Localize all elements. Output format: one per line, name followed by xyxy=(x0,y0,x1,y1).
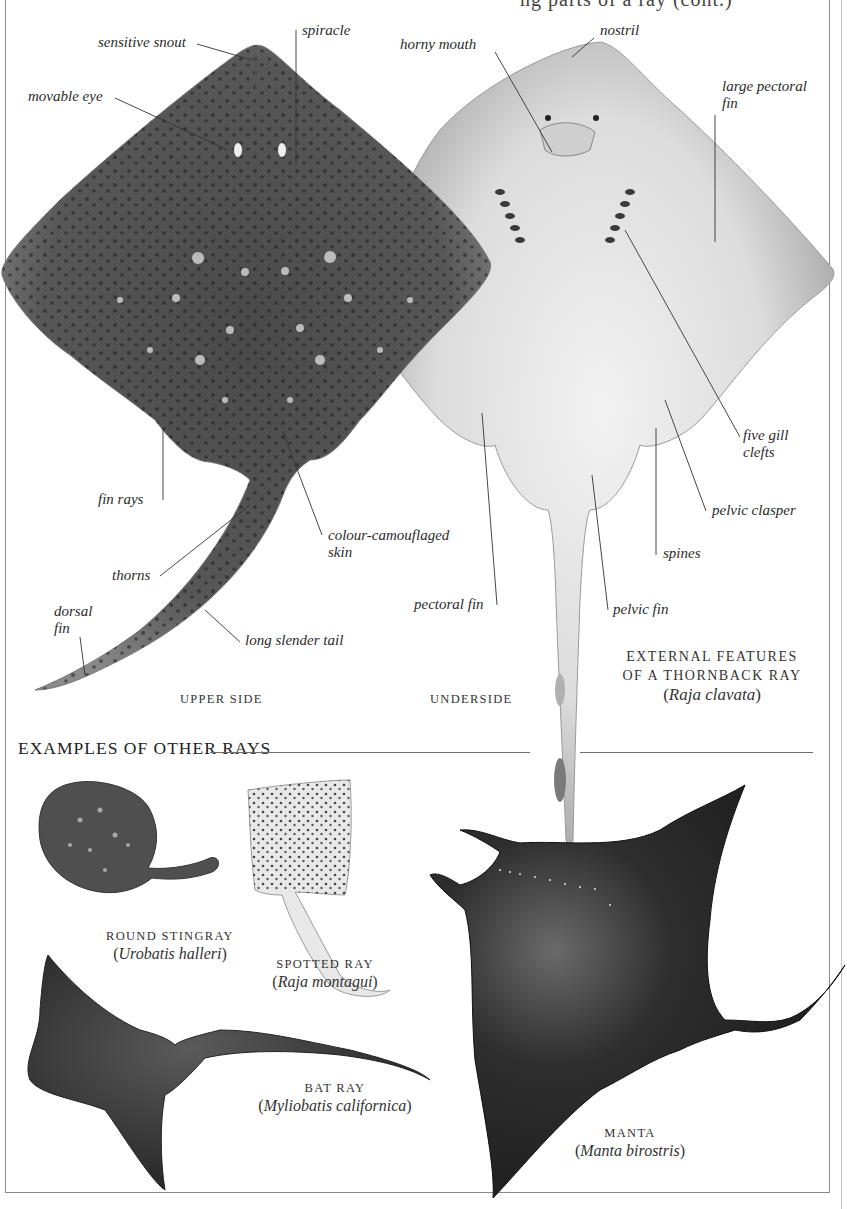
label-movable-eye: movable eye xyxy=(28,88,103,105)
label-dorsal-fin: dorsal fin xyxy=(54,603,92,637)
manta-sci-wrap: (Manta birostris) xyxy=(555,1142,705,1159)
main-caption-sci-name: Raja clavata xyxy=(669,685,755,704)
label-colour-line1: colour-camouflaged xyxy=(328,527,449,544)
label-spiracle: spiracle xyxy=(302,22,350,39)
caption-spotted-ray: SPOTTED RAY (Raja montagui) xyxy=(255,956,395,990)
spotted-ray-sci-wrap: (Raja montagui) xyxy=(255,973,395,990)
label-colour-line2: skin xyxy=(328,544,449,561)
label-pectoral-line2: fin xyxy=(722,95,807,112)
section-rule-right xyxy=(580,752,813,753)
round-stingray-illustration xyxy=(39,782,219,893)
main-caption-line1: EXTERNAL FEATURES xyxy=(612,647,812,666)
manta-common: MANTA xyxy=(555,1125,705,1142)
label-thorns: thorns xyxy=(112,567,150,584)
spotted-ray-common: SPOTTED RAY xyxy=(255,956,395,973)
label-gill-line2: clefts xyxy=(743,444,788,461)
caption-upper-side: UPPER SIDE xyxy=(180,691,263,708)
caption-round-stingray: ROUND STINGRAY (Urobatis halleri) xyxy=(90,928,250,962)
label-large-pectoral-fin: large pectoral fin xyxy=(722,78,807,112)
label-gill-line1: five gill xyxy=(743,427,788,444)
label-horny-mouth: horny mouth xyxy=(400,36,476,53)
bat-ray-sci-wrap: (Myliobatis californica) xyxy=(235,1097,435,1114)
round-stingray-sci-wrap: (Urobatis halleri) xyxy=(90,945,250,962)
caption-manta: MANTA (Manta birostris) xyxy=(555,1125,705,1159)
section-title: EXAMPLES OF OTHER RAYS xyxy=(18,738,271,759)
main-caption: EXTERNAL FEATURES OF A THORNBACK RAY (Ra… xyxy=(612,647,812,704)
label-nostril: nostril xyxy=(600,22,639,39)
main-caption-sci: (Raja clavata) xyxy=(612,685,812,704)
main-caption-line2: OF A THORNBACK RAY xyxy=(612,666,812,685)
label-pectoral-fin: pectoral fin xyxy=(414,596,484,613)
caption-bat-ray: BAT RAY (Myliobatis californica) xyxy=(235,1080,435,1114)
section-rule-left xyxy=(210,752,530,753)
bat-ray-sci: Myliobatis californica xyxy=(264,1097,407,1114)
label-dorsal-line2: fin xyxy=(54,620,92,637)
round-stingray-sci: Urobatis halleri xyxy=(119,945,222,962)
label-pelvic-fin: pelvic fin xyxy=(613,601,668,618)
label-fin-rays: fin rays xyxy=(98,491,143,508)
round-stingray-common: ROUND STINGRAY xyxy=(90,928,250,945)
caption-underside: UNDERSIDE xyxy=(430,691,513,708)
spotted-ray-sci: Raja montagui xyxy=(278,973,373,990)
label-sensitive-snout: sensitive snout xyxy=(98,34,186,51)
label-pectoral-line1: large pectoral xyxy=(722,78,807,95)
label-five-gill-clefts: five gill clefts xyxy=(743,427,788,461)
manta-sci: Manta birostris xyxy=(580,1142,679,1159)
label-colour-camouflaged-skin: colour-camouflaged skin xyxy=(328,527,449,561)
label-dorsal-line1: dorsal xyxy=(54,603,92,620)
label-long-slender-tail: long slender tail xyxy=(245,632,343,649)
label-pelvic-clasper: pelvic clasper xyxy=(712,502,796,519)
label-spines: spines xyxy=(663,545,701,562)
bat-ray-common: BAT RAY xyxy=(235,1080,435,1097)
